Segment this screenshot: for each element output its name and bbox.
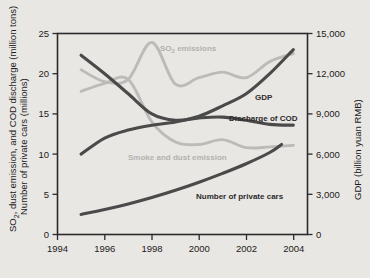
right-tick-label-6000: 6,000	[316, 149, 340, 160]
right-tick-label-15000: 15,000	[316, 28, 345, 39]
right-tick-label-3000: 3,000	[316, 189, 340, 200]
left-tick-label-0: 0	[44, 229, 49, 240]
left-axis-title-line2: Number of private cars (millions)	[18, 78, 29, 215]
left-tick-label-5: 5	[44, 189, 49, 200]
right-tick-label-9000: 9,000	[316, 108, 340, 119]
x-tick-label-1994: 1994	[47, 243, 68, 254]
x-tick-label-2002: 2002	[236, 243, 257, 254]
annotation-number-of-private-cars: Number of private cars	[196, 192, 284, 201]
annotation-discharge-of-cod: Discharge of COD	[229, 114, 298, 123]
annotation-so2-rest: emissions	[175, 44, 217, 53]
left-tick-label-20: 20	[38, 68, 49, 79]
left-tick-label-15: 15	[38, 108, 49, 119]
right-tick-label-0: 0	[316, 229, 321, 240]
right-axis-title: GDP (billion yuan RMB)	[352, 99, 363, 200]
chart-background	[0, 0, 370, 278]
left-tick-label-10: 10	[38, 149, 49, 160]
x-tick-label-1996: 1996	[94, 243, 115, 254]
left-tick-label-25: 25	[38, 28, 49, 39]
x-tick-label-2004: 2004	[283, 243, 304, 254]
annotation-smoke-and-dust-emission: Smoke and dust emission	[128, 153, 227, 162]
annotation-so2-text: SO	[160, 44, 172, 53]
annotation-gdp: GDP	[255, 93, 273, 102]
x-tick-label-2000: 2000	[189, 243, 210, 254]
annotation-so2-emissions: SO2 emissions	[160, 44, 217, 54]
right-tick-label-12000: 12,000	[316, 68, 345, 79]
chart-figure: SO2, dust emission, and COD discharge (m…	[0, 0, 370, 278]
x-tick-label-1998: 1998	[141, 243, 162, 254]
left-axis-title-rest: , dust emission, and COD discharge (mill…	[7, 6, 18, 215]
left-axis-title-so2: SO	[7, 218, 18, 232]
